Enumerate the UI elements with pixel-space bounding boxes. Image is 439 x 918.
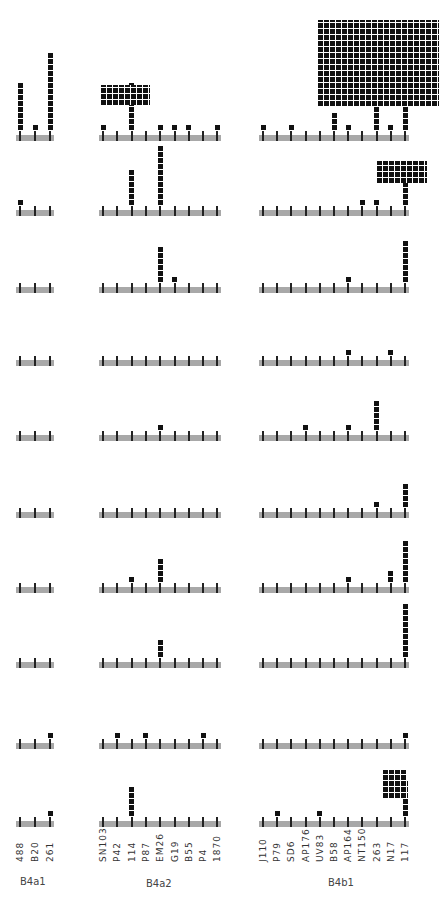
strain-label: AP176 <box>301 828 311 862</box>
data-cluster <box>318 20 439 106</box>
axis-tick <box>262 356 264 366</box>
axis-tick <box>145 283 147 293</box>
data-dot <box>403 553 408 558</box>
axis-tick <box>34 431 36 441</box>
data-dot <box>403 277 408 282</box>
data-dot <box>403 271 408 276</box>
axis-tick <box>262 131 264 141</box>
data-dot <box>158 652 163 657</box>
strain-label: J110 <box>258 838 268 862</box>
data-dot <box>403 259 408 264</box>
axis-tick <box>276 658 278 668</box>
axis-tick <box>376 356 378 366</box>
axis-tick <box>49 431 51 441</box>
strain-label: 488 <box>15 842 25 862</box>
data-dot <box>388 350 393 355</box>
axis-tick <box>131 431 133 441</box>
axis-tick <box>216 356 218 366</box>
data-dot <box>115 733 120 738</box>
data-dot <box>403 496 408 501</box>
strain-label: 261 <box>45 842 55 862</box>
axis-tick <box>116 658 118 668</box>
axis-tick <box>376 431 378 441</box>
axis-tick <box>145 583 147 593</box>
data-dot <box>403 622 408 627</box>
data-cluster <box>377 161 427 183</box>
axis-tick <box>347 739 349 749</box>
axis-tick <box>188 283 190 293</box>
axis-tick <box>116 131 118 141</box>
axis-tick <box>49 658 51 668</box>
axis-tick <box>131 583 133 593</box>
data-dot <box>403 188 408 193</box>
data-dot <box>172 125 177 130</box>
axis-tick <box>276 583 278 593</box>
data-dot <box>332 113 337 118</box>
data-dot <box>33 125 38 130</box>
data-dot <box>129 113 134 118</box>
data-dot <box>403 541 408 546</box>
data-dot <box>158 265 163 270</box>
axis-tick <box>319 739 321 749</box>
axis-tick <box>102 739 104 749</box>
axis-tick <box>131 817 133 827</box>
data-dot <box>388 577 393 582</box>
strain-label: P42 <box>112 842 122 862</box>
axis-tick <box>216 739 218 749</box>
strain-label: AP164 <box>343 828 353 862</box>
data-dot <box>403 484 408 489</box>
strain-label: B55 <box>184 841 194 862</box>
axis-tick <box>102 817 104 827</box>
axis-tick <box>102 131 104 141</box>
axis-tick <box>262 508 264 518</box>
data-dot <box>158 425 163 430</box>
data-dot <box>158 577 163 582</box>
axis-tick <box>34 739 36 749</box>
axis-tick <box>145 206 147 216</box>
axis-tick <box>34 131 36 141</box>
axis-tick <box>305 206 307 216</box>
axis-tick <box>102 508 104 518</box>
axis-tick <box>145 356 147 366</box>
axis-tick <box>49 356 51 366</box>
axis-tick <box>276 356 278 366</box>
data-dot <box>158 194 163 199</box>
axis-tick <box>188 583 190 593</box>
data-dot <box>158 176 163 181</box>
axis-tick <box>159 583 161 593</box>
data-dot <box>48 83 53 88</box>
axis-tick <box>19 356 21 366</box>
axis-tick <box>361 131 363 141</box>
axis-tick <box>404 356 406 366</box>
data-dot <box>158 200 163 205</box>
data-dot <box>158 559 163 564</box>
axis-tick <box>376 583 378 593</box>
data-dot <box>48 95 53 100</box>
axis-tick <box>116 739 118 749</box>
axis-tick <box>19 431 21 441</box>
axis-tick <box>159 658 161 668</box>
data-dot <box>129 188 134 193</box>
axis-tick <box>376 508 378 518</box>
axis-tick <box>361 431 363 441</box>
data-dot <box>48 119 53 124</box>
data-dot <box>129 805 134 810</box>
data-dot <box>48 125 53 130</box>
data-dot <box>275 811 280 816</box>
data-dot <box>403 194 408 199</box>
strain-label: EM26 <box>155 833 165 862</box>
axis-tick <box>34 817 36 827</box>
data-dot <box>403 125 408 130</box>
axis-tick <box>49 508 51 518</box>
data-dot <box>158 188 163 193</box>
strain-label: 263 <box>372 842 382 862</box>
data-dot <box>48 113 53 118</box>
data-dot <box>129 107 134 112</box>
data-dot <box>186 125 191 130</box>
data-dot <box>374 413 379 418</box>
axis-tick <box>333 658 335 668</box>
axis-tick <box>333 508 335 518</box>
axis-tick <box>290 583 292 593</box>
data-dot <box>374 407 379 412</box>
axis-tick <box>188 817 190 827</box>
